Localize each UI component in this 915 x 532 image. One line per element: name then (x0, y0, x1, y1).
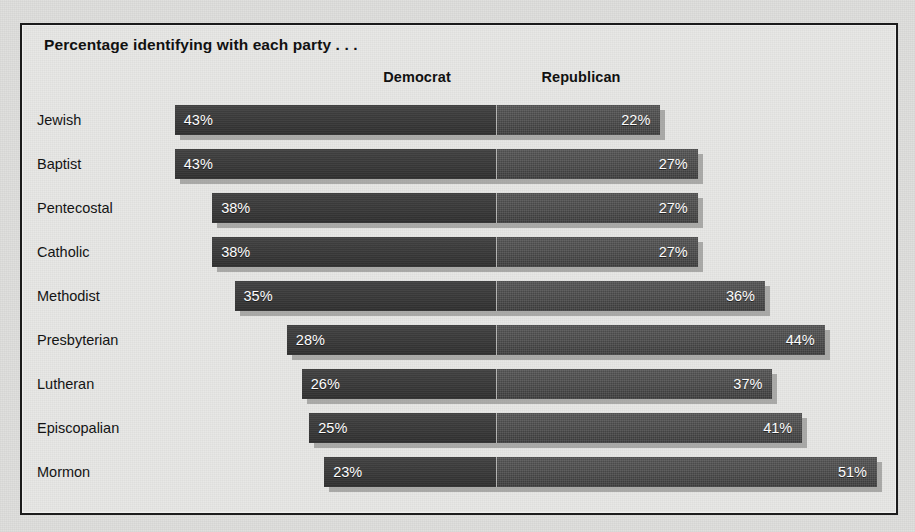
page-background: Percentage identifying with each party .… (0, 0, 915, 532)
bar-republican-mormon: 51% (496, 457, 877, 487)
chart-row: Presbyterian28%44% (22, 323, 896, 357)
bar-value-republican: 27% (659, 193, 688, 223)
bar-value-democrat: 28% (296, 325, 325, 355)
bar-democrat-jewish: 43% (175, 105, 496, 135)
bar-democrat-baptist: 43% (175, 149, 496, 179)
chart-row: Mormon23%51% (22, 455, 896, 489)
row-label-lutheran: Lutheran (37, 367, 94, 401)
bar-democrat-catholic: 38% (212, 237, 496, 267)
bar-republican-lutheran: 37% (496, 369, 772, 399)
row-label-presbyterian: Presbyterian (37, 323, 118, 357)
chart-row: Episcopalian25%41% (22, 411, 896, 445)
bar-value-republican: 41% (763, 413, 792, 443)
bar-value-democrat: 38% (221, 237, 250, 267)
bar-value-democrat: 43% (184, 105, 213, 135)
row-label-methodist: Methodist (37, 279, 100, 313)
bar-value-republican: 51% (838, 457, 867, 487)
plot-area: Jewish43%22%Baptist43%27%Pentecostal38%2… (22, 25, 896, 513)
bar-value-republican: 36% (726, 281, 755, 311)
bar-democrat-mormon: 23% (324, 457, 496, 487)
chart-row: Lutheran26%37% (22, 367, 896, 401)
bar-value-democrat: 25% (318, 413, 347, 443)
row-label-mormon: Mormon (37, 455, 90, 489)
bar-republican-presbyterian: 44% (496, 325, 825, 355)
bar-value-democrat: 43% (184, 149, 213, 179)
bar-democrat-presbyterian: 28% (287, 325, 496, 355)
row-label-catholic: Catholic (37, 235, 89, 269)
chart-row: Pentecostal38%27% (22, 191, 896, 225)
bar-democrat-episcopalian: 25% (309, 413, 496, 443)
bar-republican-baptist: 27% (496, 149, 698, 179)
bar-democrat-lutheran: 26% (302, 369, 496, 399)
chart-row: Baptist43%27% (22, 147, 896, 181)
bar-republican-pentecostal: 27% (496, 193, 698, 223)
chart-row: Catholic38%27% (22, 235, 896, 269)
bar-value-democrat: 26% (311, 369, 340, 399)
bar-value-republican: 27% (659, 149, 688, 179)
bar-value-republican: 37% (733, 369, 762, 399)
row-label-pentecostal: Pentecostal (37, 191, 113, 225)
chart-panel: Percentage identifying with each party .… (20, 23, 898, 515)
bar-value-republican: 44% (786, 325, 815, 355)
bar-republican-methodist: 36% (496, 281, 765, 311)
row-label-baptist: Baptist (37, 147, 81, 181)
bar-value-democrat: 23% (333, 457, 362, 487)
bar-democrat-methodist: 35% (235, 281, 496, 311)
bar-republican-jewish: 22% (496, 105, 660, 135)
bar-republican-episcopalian: 41% (496, 413, 802, 443)
bar-value-republican: 27% (659, 237, 688, 267)
chart-row: Methodist35%36% (22, 279, 896, 313)
row-label-jewish: Jewish (37, 103, 81, 137)
bar-democrat-pentecostal: 38% (212, 193, 496, 223)
chart-row: Jewish43%22% (22, 103, 896, 137)
bar-value-republican: 22% (621, 105, 650, 135)
bar-value-democrat: 38% (221, 193, 250, 223)
bar-republican-catholic: 27% (496, 237, 698, 267)
bar-value-democrat: 35% (244, 281, 273, 311)
row-label-episcopalian: Episcopalian (37, 411, 119, 445)
